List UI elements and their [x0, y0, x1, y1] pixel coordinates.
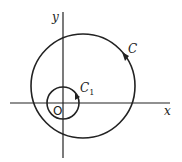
contour-c-label: C	[128, 43, 137, 55]
contour-c1-name: C	[80, 81, 89, 95]
y-axis-label: y	[52, 11, 59, 23]
x-axis-label: x	[164, 105, 171, 117]
contour-c1-subscript: 1	[89, 88, 94, 97]
contour-c1-label: C1	[80, 82, 94, 99]
contour-diagram	[0, 0, 182, 162]
contour-c-name: C	[128, 42, 137, 56]
origin-label: O	[53, 105, 62, 117]
